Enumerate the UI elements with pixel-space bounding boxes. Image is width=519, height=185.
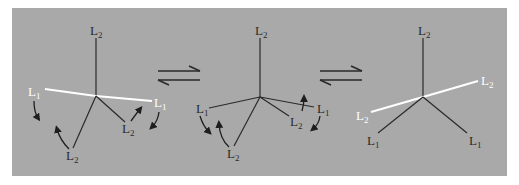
rotation-arrow-icon [57,129,69,149]
equilibrium-arrow-1 [158,66,200,85]
bond-4 [96,96,125,122]
ligand-label-L2: L2 [227,146,239,163]
ligand-label-L1: L1 [469,133,481,150]
structure-1: L2L1L1L2L2 [28,23,166,165]
ligand-label-L1: L1 [154,95,166,112]
ligand-label-L1: L1 [367,133,379,150]
bond-3 [96,96,152,101]
bond-2 [423,81,478,97]
rotation-arrow-icon [219,124,229,147]
ligand-label-L1: L1 [196,101,208,118]
bond-5 [234,97,260,146]
bond-3 [371,97,423,112]
ligand-label-L2: L2 [356,108,368,125]
bond-5 [423,97,467,133]
ligand-label-L2: L2 [122,121,134,138]
equilibrium-arrow-2 [320,66,362,85]
ligand-label-L2: L2 [290,114,302,131]
structure-2: L2L1L1L2L2 [196,23,329,163]
bond-2 [209,97,260,108]
ligand-label-L1: L1 [28,84,40,101]
ligand-label-L2: L2 [66,148,78,165]
structure-3: L2L2L2L1L1 [356,23,493,150]
ligand-label-L1: L1 [317,101,329,118]
rotation-arrow-icon [34,101,38,118]
bond-5 [73,96,96,148]
rotation-arrow-icon [200,116,209,132]
ligand-label-L2: L2 [90,23,102,40]
ligand-label-L2: L2 [481,73,493,90]
rotation-arrow-icon [131,109,140,121]
rotation-arrow-icon [313,116,320,129]
ligand-equilibrium-diagram: L2L1L1L2L2L2L1L1L2L2L2L2L2L1L1 [0,0,519,185]
structures: L2L1L1L2L2L2L1L1L2L2L2L2L2L1L1 [28,23,493,165]
ligand-label-L2: L2 [255,23,267,40]
bond-2 [45,89,96,96]
ligand-label-L2: L2 [418,23,430,40]
rotation-arrow-icon [152,112,159,127]
